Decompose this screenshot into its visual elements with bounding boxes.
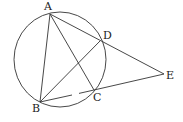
geometry-diagram: A D E C B [0,0,183,122]
segment-bd [40,41,100,102]
segment-ce [94,74,164,90]
point-label-e: E [166,69,174,82]
segment-bc-part1 [40,95,72,102]
point-label-c: C [93,91,101,104]
point-label-a: A [43,0,53,13]
point-label-b: B [32,102,40,115]
segment-bc-part2 [79,90,94,93]
point-label-d: D [103,29,112,42]
segment-ab [40,14,50,102]
